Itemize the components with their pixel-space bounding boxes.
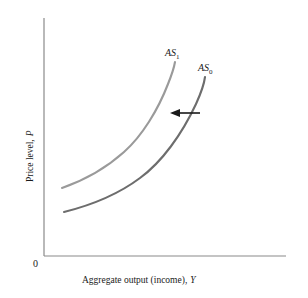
x-axis-label-variable: Y — [190, 275, 197, 285]
as1-label-subscript: 1 — [176, 53, 180, 61]
aggregate-supply-shift-figure: AS1 AS0 Price level,P Aggregate output (… — [0, 0, 308, 298]
as0-label-base: AS — [197, 62, 209, 73]
as0-curve-label: AS0 — [197, 62, 213, 76]
as1-label-base: AS — [164, 47, 176, 58]
as0-curve — [64, 77, 205, 212]
x-axis-label-main: Aggregate output (income), — [82, 275, 187, 286]
as1-curve-label: AS1 — [164, 47, 180, 61]
as1-curve — [62, 62, 175, 188]
x-axis-label: Aggregate output (income),Y — [82, 275, 197, 286]
origin-label: 0 — [33, 258, 38, 269]
as0-label-subscript: 0 — [209, 68, 213, 76]
leftward-shift-arrow — [170, 109, 200, 117]
chart-canvas: AS1 AS0 Price level,P Aggregate output (… — [0, 0, 308, 298]
y-axis-label-main: Price level, — [25, 139, 35, 182]
y-axis-label-variable: P — [25, 130, 35, 137]
y-axis-label: Price level,P — [25, 130, 35, 182]
arrow-head-icon — [170, 109, 180, 117]
